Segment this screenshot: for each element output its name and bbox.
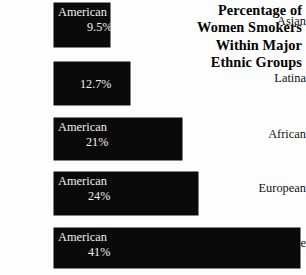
bar-inside-label: American (58, 230, 298, 245)
bar-inside-label: American (58, 120, 180, 135)
bar-row: African American 21% (0, 118, 306, 160)
bar-row: Asian American 9.5% (0, 3, 306, 47)
bar-value-label: 21% (58, 135, 180, 150)
bar-category-label: Asian (254, 14, 306, 28)
bar-inner-content: 12.7% (58, 64, 128, 103)
bar-inner-content: American 41% (58, 230, 298, 266)
bar-latina: 12.7% (54, 62, 130, 105)
bar-value-label: 41% (58, 245, 298, 260)
bar-category-label: Latina (254, 71, 306, 85)
bar-native-american: American 41% (54, 228, 300, 268)
bar-asian-american: American 9.5% (54, 3, 110, 47)
bar-inside-label: American (58, 5, 108, 20)
bar-european-american: American 24% (54, 172, 198, 215)
bar-row: Latina 12.7% (0, 62, 306, 105)
bar-value-label: 24% (58, 189, 196, 204)
bar-inner-content: American 9.5% (58, 5, 108, 45)
bar-row: Native American 41% (0, 228, 306, 268)
bar-category-label: European (254, 181, 306, 195)
bar-category-label: African (254, 127, 306, 141)
bar-inside-label (58, 64, 128, 77)
bar-african-american: American 21% (54, 118, 182, 160)
bar-inside-label: American (58, 174, 196, 189)
bar-inner-content: American 21% (58, 120, 180, 158)
bar-inner-content: American 24% (58, 174, 196, 213)
bar-value-label: 9.5% (58, 20, 108, 35)
bar-value-label: 12.7% (58, 77, 128, 92)
bar-row: European American 24% (0, 172, 306, 215)
chart-container: Percentage of Women Smokers Within Major… (0, 0, 306, 275)
